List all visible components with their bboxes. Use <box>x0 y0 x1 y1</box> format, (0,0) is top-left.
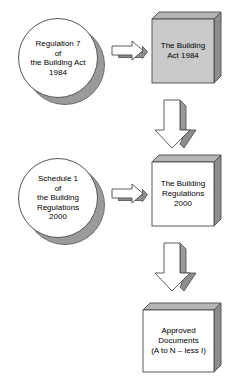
circle-regulation-7-line-3: the Building Act <box>30 58 85 68</box>
box-building-regulations: The Building Regulations 2000 <box>152 155 222 233</box>
box-building-regulations-line-1: The Building <box>161 179 205 189</box>
box-approved-documents-line-2: Documents <box>158 336 198 346</box>
circle-schedule-1-line-5: 2000 <box>49 212 67 222</box>
arrow-schedule1-to-regulations <box>112 184 146 208</box>
circle-regulation-7-line-4: 1984 <box>49 68 67 78</box>
box-building-regulations-label: The Building Regulations 2000 <box>152 162 214 226</box>
box-building-act: The Building Act 1984 <box>152 12 222 90</box>
box-building-regulations-line-2: Regulations <box>162 189 204 199</box>
circle-schedule-1-line-3: the Building <box>37 193 79 203</box>
circle-schedule-1-line-2: of <box>55 184 62 194</box>
circle-regulation-7-face: Regulation 7 of the Building Act 1984 <box>18 18 98 98</box>
circle-regulation-7: Regulation 7 of the Building Act 1984 <box>18 18 106 106</box>
box-building-act-line-2: Act 1984 <box>167 51 199 61</box>
circle-regulation-7-line-1: Regulation 7 <box>36 39 81 49</box>
box-building-act-line-1: The Building <box>161 41 205 51</box>
circle-regulation-7-line-2: of <box>55 49 62 59</box>
arrow-regulations-to-approved-documents <box>158 243 206 295</box>
arrow-regulation7-to-act <box>112 41 146 65</box>
box-approved-documents-line-1: Approved <box>161 326 195 336</box>
box-building-act-label: The Building Act 1984 <box>152 19 214 83</box>
diagram-canvas: Regulation 7 of the Building Act 1984 <box>0 0 230 385</box>
box-approved-documents-line-3: (A to N – less I) <box>151 346 206 356</box>
circle-schedule-1-line-4: Regulations <box>37 203 79 213</box>
circle-schedule-1: Schedule 1 of the Building Regulations 2… <box>18 158 106 246</box>
box-approved-documents-label: Approved Documents (A to N – less I) <box>143 310 214 372</box>
arrow-act-to-regulations <box>158 100 206 152</box>
circle-schedule-1-face: Schedule 1 of the Building Regulations 2… <box>18 158 98 238</box>
box-building-regulations-line-3: 2000 <box>174 199 192 209</box>
box-approved-documents: Approved Documents (A to N – less I) <box>143 303 222 381</box>
circle-schedule-1-line-1: Schedule 1 <box>38 174 78 184</box>
